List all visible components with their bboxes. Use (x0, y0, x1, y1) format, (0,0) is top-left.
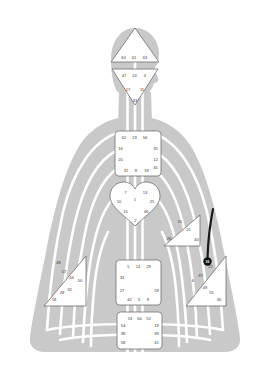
gate-10[interactable]: 10 (117, 199, 122, 204)
gate-48[interactable]: 48 (56, 260, 61, 265)
center-sacral[interactable]: 5 14 29 34 27 59 42 3 9 (116, 260, 161, 305)
gate-27[interactable]: 27 (120, 288, 125, 293)
badge-label: 36 (206, 260, 210, 264)
gate-39[interactable]: 39 (154, 331, 159, 336)
gate-32[interactable]: 32 (67, 287, 72, 292)
gate-12[interactable]: 12 (153, 157, 158, 162)
gate-62[interactable]: 62 (122, 135, 127, 140)
gate-43[interactable]: 43 (133, 98, 138, 103)
gate-34[interactable]: 34 (120, 275, 125, 280)
gate-60[interactable]: 60 (137, 316, 142, 321)
gate-42[interactable]: 42 (127, 297, 132, 302)
gate-30[interactable]: 30 (217, 297, 222, 302)
gate-31[interactable]: 31 (124, 168, 129, 173)
gate-23[interactable]: 23 (132, 135, 137, 140)
bodygraph-svg: 64 61 63 47 24 4 17 11 43 62 23 56 16 35… (0, 0, 270, 377)
gate-35[interactable]: 35 (153, 146, 158, 151)
bodygraph-canvas: 64 61 63 47 24 4 17 11 43 62 23 56 16 35… (0, 0, 270, 377)
gate-51[interactable]: 51 (178, 219, 183, 224)
gate-57[interactable]: 57 (62, 269, 67, 274)
gate-40[interactable]: 40 (194, 237, 199, 242)
gate-14[interactable]: 14 (136, 264, 141, 269)
gate-44[interactable]: 44 (69, 275, 74, 280)
gate-15[interactable]: 15 (123, 209, 128, 214)
gate-37[interactable]: 37 (198, 273, 203, 278)
gate-26[interactable]: 26 (167, 236, 172, 241)
gate-28[interactable]: 28 (60, 290, 65, 295)
gate-11[interactable]: 11 (140, 87, 145, 92)
gate-25[interactable]: 25 (150, 199, 155, 204)
center-throat[interactable]: 62 23 56 16 35 20 12 45 31 8 33 (115, 131, 161, 176)
gate-54[interactable]: 54 (121, 323, 126, 328)
gate-49[interactable]: 49 (203, 285, 208, 290)
gate-41[interactable]: 41 (154, 340, 159, 345)
gate-63[interactable]: 63 (143, 55, 148, 60)
gate-24[interactable]: 24 (132, 73, 137, 78)
gate-21[interactable]: 21 (186, 227, 191, 232)
gate-16[interactable]: 16 (118, 146, 123, 151)
gate-20[interactable]: 20 (118, 157, 123, 162)
gate-53[interactable]: 53 (128, 316, 133, 321)
gate-33[interactable]: 33 (144, 168, 149, 173)
gate-17[interactable]: 17 (126, 87, 131, 92)
gate-55[interactable]: 55 (209, 290, 214, 295)
activated-gate-badge[interactable]: 36 (203, 257, 211, 265)
gate-13[interactable]: 13 (143, 190, 148, 195)
center-root[interactable]: 53 60 52 54 19 38 39 58 41 (117, 312, 162, 349)
gate-59[interactable]: 59 (154, 288, 159, 293)
gate-47[interactable]: 47 (122, 73, 127, 78)
gate-64[interactable]: 64 (121, 55, 126, 60)
gate-18[interactable]: 18 (52, 297, 57, 302)
gate-56[interactable]: 56 (143, 135, 148, 140)
gate-19[interactable]: 19 (154, 323, 159, 328)
gate-29[interactable]: 29 (146, 264, 151, 269)
gate-45[interactable]: 45 (153, 165, 158, 170)
gate-61[interactable]: 61 (132, 55, 137, 60)
gate-58[interactable]: 58 (121, 340, 126, 345)
gate-52[interactable]: 52 (146, 316, 151, 321)
gate-38[interactable]: 38 (121, 331, 126, 336)
gate-46[interactable]: 46 (144, 209, 149, 214)
gate-50[interactable]: 50 (78, 278, 83, 283)
